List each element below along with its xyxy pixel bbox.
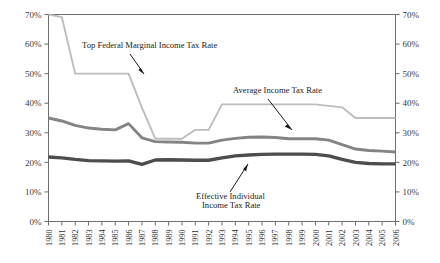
y-axis-right-tick-label: 0% bbox=[403, 217, 416, 227]
y-axis-right-tick-label: 50% bbox=[403, 69, 420, 79]
y-axis-left-tick-label: 0% bbox=[30, 217, 43, 227]
y-axis-left-tick-label: 60% bbox=[25, 39, 42, 49]
x-axis-year-label: 1995 bbox=[245, 230, 254, 246]
x-axis-year-label: 2002 bbox=[338, 230, 347, 246]
chart-background bbox=[0, 0, 440, 263]
x-axis-year-label: 1992 bbox=[205, 230, 214, 246]
x-axis-year-label: 1996 bbox=[258, 230, 267, 246]
y-axis-left-tick-label: 20% bbox=[25, 158, 42, 168]
x-axis-year-label: 1983 bbox=[85, 230, 94, 246]
x-axis-year-label: 1987 bbox=[138, 230, 147, 246]
annotation-label-top-marginal: Top Federal Marginal Income Tax Rate bbox=[82, 40, 217, 50]
x-axis-year-label: 1980 bbox=[45, 230, 54, 246]
x-axis-year-label: 1997 bbox=[271, 230, 280, 246]
x-axis-year-label: 1993 bbox=[218, 230, 227, 246]
y-axis-left-tick-label: 70% bbox=[25, 10, 42, 20]
x-axis-year-label: 1982 bbox=[71, 230, 80, 246]
x-axis-year-label: 1986 bbox=[125, 230, 134, 246]
x-axis-year-label: 2000 bbox=[312, 230, 321, 246]
y-axis-left-tick-label: 30% bbox=[25, 128, 42, 138]
x-axis-year-label: 1991 bbox=[191, 230, 200, 246]
x-axis-year-label: 1990 bbox=[178, 230, 187, 246]
x-axis-year-label: 2006 bbox=[392, 230, 401, 246]
x-axis-year-label: 1994 bbox=[231, 230, 240, 246]
y-axis-right-tick-label: 70% bbox=[403, 10, 420, 20]
y-axis-right-tick-label: 20% bbox=[403, 158, 420, 168]
y-axis-right-tick-label: 40% bbox=[403, 98, 420, 108]
x-axis-year-label: 1999 bbox=[298, 230, 307, 246]
x-axis-year-label: 1998 bbox=[285, 230, 294, 246]
y-axis-left-tick-label: 40% bbox=[25, 98, 42, 108]
x-axis-year-label: 1989 bbox=[165, 230, 174, 246]
x-axis-year-label: 1984 bbox=[98, 230, 107, 246]
x-axis-year-label: 2003 bbox=[352, 230, 361, 246]
annotation-label-effective-line2: Income Tax Rate bbox=[202, 200, 261, 210]
x-axis-year-label: 1985 bbox=[111, 230, 120, 246]
y-axis-left-tick-label: 50% bbox=[25, 69, 42, 79]
y-axis-right-tick-label: 30% bbox=[403, 128, 420, 138]
chart-canvas: 0%10%20%30%40%50%60%70% 0%10%20%30%40%50… bbox=[0, 0, 440, 263]
annotation-label-average: Average Income Tax Rate bbox=[233, 85, 322, 95]
tax-rate-line-chart: 0%10%20%30%40%50%60%70% 0%10%20%30%40%50… bbox=[0, 0, 440, 263]
x-axis-year-label: 2005 bbox=[378, 230, 387, 246]
y-axis-left-tick-label: 10% bbox=[25, 187, 42, 197]
x-axis-year-label: 1981 bbox=[58, 230, 67, 246]
x-axis-year-label: 1988 bbox=[151, 230, 160, 246]
x-axis-year-label: 2001 bbox=[325, 230, 334, 246]
y-axis-right-tick-label: 60% bbox=[403, 39, 420, 49]
y-axis-right-tick-label: 10% bbox=[403, 187, 420, 197]
x-axis-year-label: 2004 bbox=[365, 230, 374, 246]
